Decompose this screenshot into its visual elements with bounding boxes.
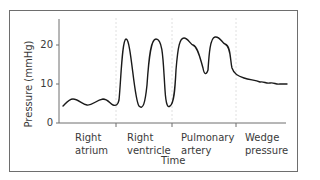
pressure-trace <box>63 37 287 107</box>
category-label-line1: Pulmonary <box>181 131 234 144</box>
y-tick-20: 20 <box>33 40 53 50</box>
category-pulmonary-artery: Pulmonary artery <box>181 131 234 157</box>
x-axis-label: Time <box>161 155 185 166</box>
category-wedge-pressure: Wedge pressure <box>245 131 288 157</box>
category-right-atrium: Right atrium <box>75 131 108 157</box>
category-right-ventricle: Right ventricle <box>127 131 171 157</box>
y-tick-10: 10 <box>33 79 53 89</box>
category-label-line2: artery <box>181 144 234 157</box>
category-label-line1: Right <box>75 131 108 144</box>
category-label-line1: Right <box>127 131 171 144</box>
category-label-line1: Wedge <box>245 131 288 144</box>
category-label-line2: atrium <box>75 144 108 157</box>
x-axis <box>59 123 286 127</box>
y-axis <box>56 19 59 123</box>
category-label-line2: pressure <box>245 144 288 157</box>
y-axis-label: Pressure (mmHg) <box>23 40 34 127</box>
y-tick-0: 0 <box>33 118 53 128</box>
